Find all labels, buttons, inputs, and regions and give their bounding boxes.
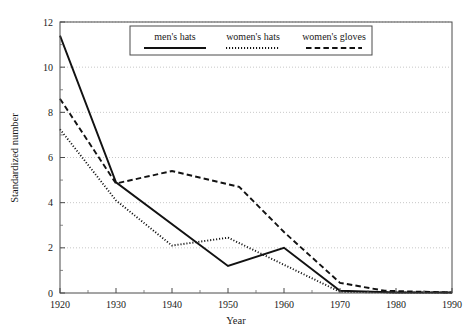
y-tick-label-0: 0 [48, 288, 53, 299]
x-tick-label-1980: 1980 [386, 299, 406, 310]
line-chart: 024681012 192019301940195019601970198019… [0, 0, 473, 331]
x-tick-label-1950: 1950 [218, 299, 238, 310]
y-tick-label-4: 4 [48, 197, 53, 208]
x-tick-label-1920: 1920 [50, 299, 70, 310]
chart-legend: men's hats women's hats women's gloves [130, 26, 372, 55]
chart-figure: 024681012 192019301940195019601970198019… [0, 0, 473, 331]
y-tick-label-12: 12 [43, 17, 53, 28]
x-tick-label-1970: 1970 [330, 299, 350, 310]
x-axis-title: Year [226, 315, 246, 326]
y-tick-label-2: 2 [48, 242, 53, 253]
y-axis-title: Standardized number [9, 113, 20, 203]
y-tick-label-8: 8 [48, 107, 53, 118]
x-tick-label-1990: 1990 [442, 299, 462, 310]
y-tick-label-10: 10 [43, 62, 53, 73]
legend-label-mens-hats: men's hats [154, 31, 196, 42]
legend-label-womens-hats: women's hats [226, 31, 280, 42]
y-tick-label-6: 6 [48, 152, 53, 163]
x-tick-label-1940: 1940 [162, 299, 182, 310]
x-tick-label-1960: 1960 [274, 299, 294, 310]
x-tick-label-1930: 1930 [106, 299, 126, 310]
legend-label-womens-gloves: women's gloves [302, 31, 366, 42]
